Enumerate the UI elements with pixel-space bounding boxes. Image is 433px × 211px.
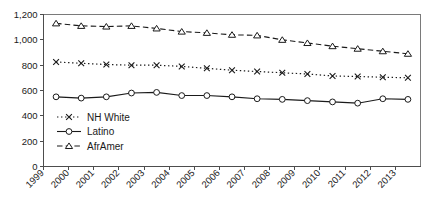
data-point-marker-circle [103,94,109,100]
data-point-marker-x [330,73,336,79]
data-point-marker-circle [330,99,336,105]
x-tick-label: 2004 [149,167,172,190]
data-point-marker-circle [154,90,160,96]
x-tick-label: 1999 [23,167,46,190]
y-tick-label: 1,200 [14,9,38,20]
data-point-marker-x [78,60,84,66]
x-tick-label: 2002 [99,167,122,190]
data-point-marker-x [405,75,411,81]
data-point-marker-circle [129,90,135,96]
y-tick-label: 800 [22,60,38,71]
y-tick-label: 600 [22,85,38,96]
x-tick-label: 2006 [199,167,222,190]
data-point-marker-circle [279,96,285,102]
y-tick-label: 200 [22,136,38,147]
series-aframer [52,20,411,56]
data-point-marker-x [179,64,185,70]
x-tick-label: 2005 [174,167,197,190]
legend-item-aframer: AfrAmer [57,141,124,152]
x-tick-label: 2008 [249,167,272,190]
x-tick-label: 2001 [73,167,96,190]
legend-label: AfrAmer [87,141,124,152]
data-point-marker-triangle [279,37,286,43]
data-point-marker-x [305,71,311,77]
y-tick-label: 400 [22,110,38,121]
data-point-marker-circle [66,129,72,135]
series-latino [53,90,411,107]
data-point-marker-circle [355,100,361,106]
y-axis-ticks: 02004006008001,0001,200 [14,9,44,172]
data-point-marker-circle [405,96,411,102]
legend-item-latino: Latino [57,126,115,137]
x-tick-label: 2000 [48,167,71,190]
data-point-marker-x [129,62,135,68]
legend-label: NH White [87,112,130,123]
data-point-marker-x [53,59,59,65]
data-point-marker-circle [204,93,210,99]
x-tick-label: 2012 [350,167,373,190]
x-tick-label: 2013 [375,167,398,190]
data-point-marker-circle [380,96,386,102]
data-point-marker-circle [53,94,59,100]
data-point-marker-circle [305,98,311,104]
data-point-marker-x [254,69,260,75]
series-nh-white [53,59,411,81]
data-point-marker-circle [179,93,185,99]
y-tick-label: 1,000 [14,34,38,45]
x-tick-label: 2011 [325,167,347,189]
data-point-marker-x [154,62,160,68]
legend-item-nh-white: NH White [57,112,130,123]
data-point-marker-circle [254,96,260,102]
data-point-marker-triangle [304,40,311,46]
x-tick-label: 2007 [224,167,247,190]
x-axis-ticks: 1999200020012002200320042005200620072008… [23,167,398,190]
data-point-marker-circle [78,95,84,101]
legend: NH WhiteLatinoAfrAmer [57,112,130,152]
x-tick-label: 2003 [124,167,147,190]
data-point-marker-x [229,67,235,73]
legend-label: Latino [87,126,115,137]
x-tick-label: 2010 [300,167,323,190]
data-point-marker-x [66,114,72,120]
x-tick-label: 2009 [275,167,298,190]
data-point-marker-circle [229,94,235,100]
data-point-marker-triangle [254,32,261,38]
chart-figure: 02004006008001,0001,20019992000200120022… [0,0,433,211]
line-chart: 02004006008001,0001,20019992000200120022… [0,0,433,211]
